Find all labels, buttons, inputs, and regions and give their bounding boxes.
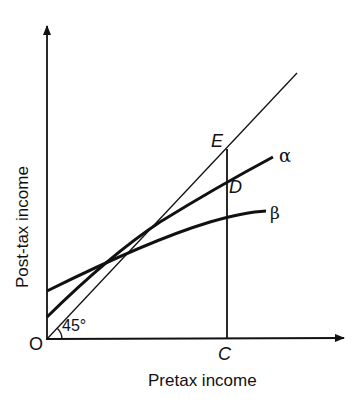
angle-label: 45° bbox=[62, 317, 86, 335]
origin-label: O bbox=[29, 334, 43, 355]
beta-curve-label: β bbox=[270, 203, 280, 223]
x-axis bbox=[46, 338, 344, 339]
x-axis-label: Pretax income bbox=[148, 371, 257, 391]
point-e-label: E bbox=[211, 131, 223, 152]
point-d-label: D bbox=[229, 177, 242, 198]
alpha-curve-label: α bbox=[279, 145, 291, 166]
diagram-canvas bbox=[0, 0, 358, 407]
point-c-label: C bbox=[218, 344, 231, 365]
forty-five-degree-line bbox=[47, 73, 297, 339]
y-axis-label: Post-tax income bbox=[13, 166, 33, 288]
